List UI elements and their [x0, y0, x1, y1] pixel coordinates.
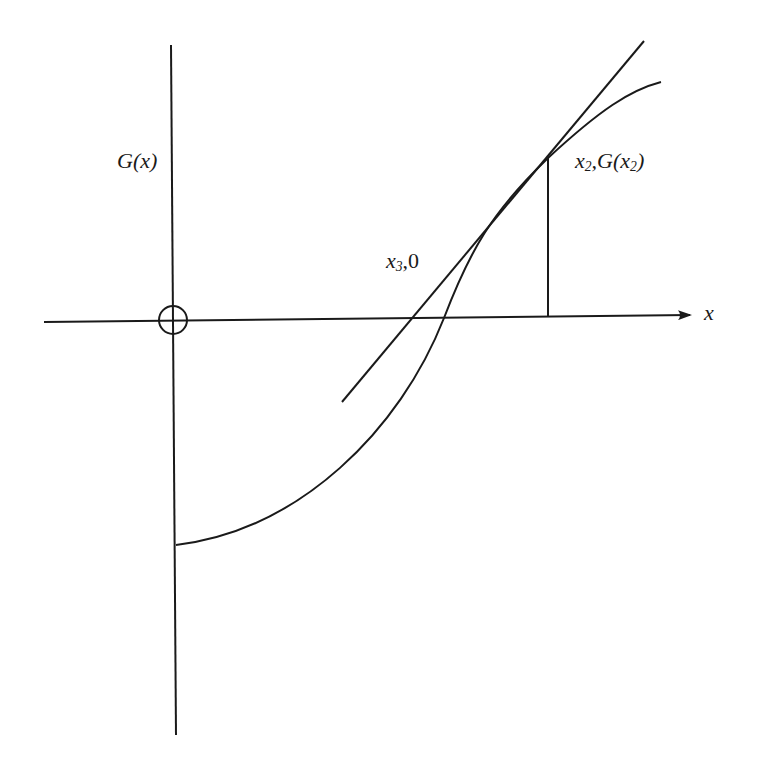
y-axis [171, 45, 176, 735]
point-x3-label: x3,0 [386, 250, 419, 274]
y-axis-label: G(x) [117, 150, 157, 172]
x3-rest: ,0 [403, 248, 420, 273]
x2-sub: 2 [585, 159, 592, 174]
x-axis [44, 315, 690, 322]
x2-sub2: 2 [630, 159, 637, 174]
x3-sub: 3 [396, 259, 403, 274]
x2-end: ) [637, 148, 644, 173]
newton-method-diagram [0, 0, 760, 779]
point-x2-label: x2,G(x2) [575, 150, 644, 174]
x-axis-label: x [704, 302, 714, 324]
x2-var: x [575, 148, 585, 173]
tangent-line [342, 41, 644, 402]
x3-var: x [386, 248, 396, 273]
x2-mid: ,G(x [592, 148, 630, 173]
